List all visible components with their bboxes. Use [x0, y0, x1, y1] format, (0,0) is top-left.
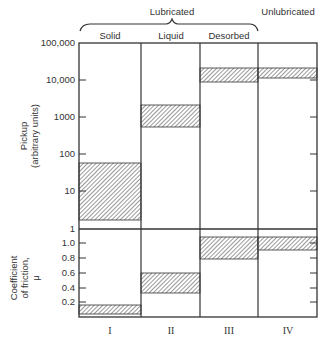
pickup-tick-1000: 1000 [54, 111, 75, 122]
friction-tick-0.2: 0.2 [62, 296, 75, 307]
pickup-range-I [79, 163, 141, 220]
friction-range-III [200, 237, 258, 259]
friction-tick-0.8: 0.8 [62, 252, 75, 263]
pickup-tick-100000: 100,000 [41, 37, 75, 48]
pickup-range-IV [258, 68, 317, 78]
column-header-solid: Solid [99, 30, 120, 41]
pickup-tick-100: 100 [59, 148, 75, 159]
column-header-liquid: Liquid [158, 30, 183, 41]
friction-range-I [79, 305, 141, 314]
pickup-tick-1: 1 [70, 223, 75, 234]
friction-range-IV [258, 237, 317, 250]
pickup-tick-10000: 10,000 [46, 74, 75, 85]
svg-text:of friction,: of friction, [19, 257, 30, 298]
friction-tick-labels: 1.0 0.8 0.6 0.4 0.2 [62, 237, 75, 307]
column-label-I: I [108, 325, 111, 336]
friction-range-II [141, 273, 200, 293]
pickup-tick-labels: 100,000 10,000 1000 100 10 1 [41, 37, 75, 234]
svg-text:μ: μ [30, 275, 41, 280]
pickup-range-II [141, 105, 200, 127]
group-label-lubricated: Lubricated [150, 6, 194, 17]
friction-tick-1.0: 1.0 [62, 237, 75, 248]
column-header-desorbed: Desorbed [208, 30, 249, 41]
chart-canvas: Lubricated Unlubricated Solid Liquid Des… [0, 0, 332, 339]
pickup-tick-10: 10 [64, 185, 75, 196]
friction-axis-title: Coefficient of friction, μ [8, 255, 41, 300]
friction-tick-0.4: 0.4 [62, 282, 75, 293]
svg-text:Coefficient: Coefficient [8, 255, 19, 300]
svg-text:Pickup: Pickup [18, 122, 29, 151]
group-label-unlubricated: Unlubricated [261, 6, 314, 17]
pickup-axis-title: Pickup (arbitrary units) [18, 104, 40, 168]
column-label-III: III [224, 325, 234, 336]
column-label-II: II [168, 325, 175, 336]
pickup-range-III [200, 68, 258, 82]
friction-tick-0.6: 0.6 [62, 267, 75, 278]
svg-text:(arbitrary units): (arbitrary units) [29, 104, 40, 168]
column-label-IV: IV [283, 325, 294, 336]
